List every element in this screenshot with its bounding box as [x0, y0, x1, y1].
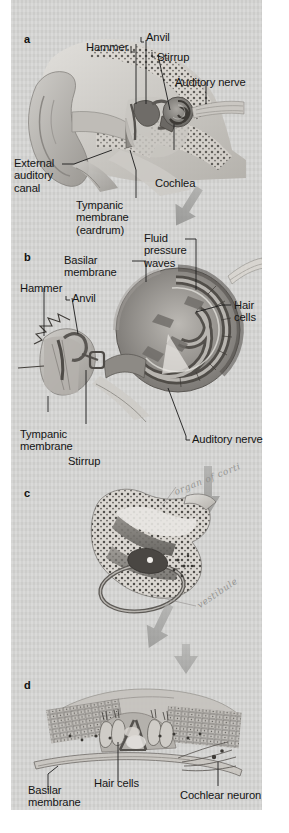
label-basilar-membrane-d: Basilar membrane — [28, 784, 81, 809]
panel-a-artwork — [29, 39, 246, 196]
panel-letter-c: c — [24, 487, 30, 499]
panel-letter-a: a — [24, 33, 30, 45]
panel-letter-d: d — [24, 679, 31, 691]
label-basilar-membrane-b: Basilar membrane — [64, 254, 117, 279]
panel-letter-b: b — [24, 251, 31, 263]
label-stirrup-a: Stirrup — [157, 51, 189, 63]
label-hammer-a: Hammer — [86, 41, 128, 53]
label-tympanic-membrane-a: Tympanic membrane (eardrum) — [76, 199, 129, 236]
label-hair-cells-b: Hair cells — [234, 299, 256, 324]
label-fluid-pressure-waves: Fluid pressure waves — [144, 232, 187, 269]
ear-anatomy-figure: a b c d Hammer Anvil Stirrup Auditory ne… — [0, 0, 289, 833]
arrow-into-d — [174, 644, 198, 674]
panel-d-artwork — [34, 689, 242, 776]
label-cochlear-neuron: Cochlear neuron — [180, 789, 261, 801]
figure-artwork — [0, 0, 289, 833]
label-stirrup-b: Stirrup — [68, 455, 100, 467]
panel-c-artwork — [91, 487, 216, 617]
label-hair-cells-d: Hair cells — [94, 777, 139, 789]
label-hammer-b: Hammer — [20, 282, 62, 294]
label-cochlea: Cochlea — [155, 177, 195, 189]
label-tympanic-membrane-b: Tympanic membrane — [20, 428, 73, 453]
label-auditory-nerve-a: Auditory nerve — [175, 76, 246, 88]
label-external-auditory-canal: External auditory canal — [14, 157, 54, 194]
label-anvil-b: Anvil — [72, 292, 96, 304]
label-auditory-nerve-b: Auditory nerve — [192, 433, 263, 445]
label-anvil-a: Anvil — [146, 31, 170, 43]
